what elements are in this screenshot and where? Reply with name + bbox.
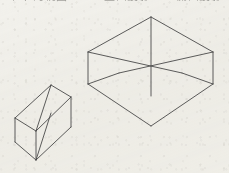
worksheet-page: 画出 的视图 正面投影 侧面投影 [0,0,229,173]
small-cube-edges [15,85,71,160]
large-cube-inner-edges [88,17,213,96]
small-cube-figure [15,85,71,160]
large-cube-outline [88,17,213,126]
large-cube-figure [88,17,213,126]
figures-canvas [0,0,229,173]
